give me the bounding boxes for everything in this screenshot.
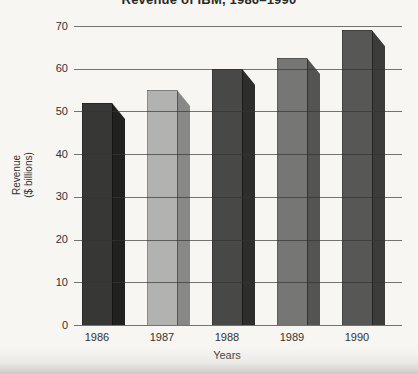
bar-side-face — [177, 90, 190, 325]
gridline-30 — [74, 197, 402, 198]
y-tick-label-50: 50 — [38, 105, 68, 117]
y-axis-title-line1: Revenue — [11, 152, 23, 198]
y-tick-label-70: 70 — [38, 20, 68, 32]
bar-front-face — [277, 58, 307, 325]
y-axis-title-line2: ($ billions) — [22, 152, 34, 198]
bar-front-face — [342, 30, 372, 325]
y-tick-label-60: 60 — [38, 62, 68, 74]
bar-side-face — [372, 30, 385, 325]
bar-front-face — [82, 103, 112, 325]
scan-edge-shadow — [0, 348, 418, 374]
chart-canvas: Revenue of IBM, 1986–1990 Revenue ($ bil… — [0, 0, 418, 374]
bar-side-face — [307, 58, 320, 325]
y-tick-label-40: 40 — [38, 148, 68, 160]
gridline-70 — [74, 26, 402, 27]
y-tick-label-10: 10 — [38, 276, 68, 288]
bar-front-face — [147, 90, 177, 325]
x-tick-label-1988: 1988 — [197, 331, 257, 343]
chart-title: Revenue of IBM, 1986–1990 — [0, 0, 418, 7]
gridline-10 — [74, 282, 402, 283]
bar-side-face — [112, 103, 125, 325]
y-axis-title: Revenue ($ billions) — [11, 152, 34, 198]
y-tick-label-30: 30 — [38, 190, 68, 202]
bar-1987 — [147, 90, 190, 325]
x-tick-label-1990: 1990 — [327, 331, 387, 343]
x-tick-label-1989: 1989 — [262, 331, 322, 343]
x-tick-label-1986: 1986 — [67, 331, 127, 343]
x-tick-label-1987: 1987 — [132, 331, 192, 343]
y-tick-label-0: 0 — [38, 319, 68, 331]
y-tick-label-20: 20 — [38, 233, 68, 245]
gridline-20 — [74, 240, 402, 241]
bar-1986 — [82, 103, 125, 325]
bar-1990 — [342, 30, 385, 325]
bar-1989 — [277, 58, 320, 325]
gridline-50 — [74, 111, 402, 112]
gridline-60 — [74, 69, 402, 70]
gridline-0 — [74, 325, 402, 326]
gridline-40 — [74, 154, 402, 155]
